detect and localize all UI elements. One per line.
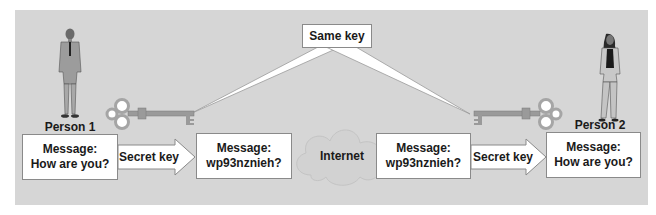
receiver-decrypt-label: Secret key [472,150,534,165]
sender-ciphertext-body: wp93nznieh? [206,156,281,171]
receiver-ciphertext-box: Message: wp93nznieh? [376,133,471,179]
sender-encrypt-label: Secret key [118,150,180,165]
receiver-ciphertext-title: Message: [396,141,451,156]
receiver-plaintext-title: Message: [566,140,621,155]
key-icon [106,98,202,130]
sender-ciphertext-title: Message: [217,141,272,156]
person-man-icon [50,28,90,120]
receiver-plaintext-box: Message: How are you? [546,132,641,178]
person-1-label: Person 1 [40,120,100,134]
sender-ciphertext-box: Message: wp93nznieh? [196,133,292,179]
person-woman-icon [590,34,630,126]
same-key-label: Same key [302,24,372,48]
receiver-plaintext-body: How are you? [554,155,633,170]
person-2-label: Person 2 [570,118,630,132]
sender-plaintext-box: Message: How are you? [22,134,118,180]
receiver-ciphertext-body: wp93nznieh? [386,156,461,171]
internet-label: Internet [314,149,370,163]
sender-plaintext-title: Message: [43,142,98,157]
key-icon [466,98,562,130]
sender-plaintext-body: How are you? [31,157,110,172]
